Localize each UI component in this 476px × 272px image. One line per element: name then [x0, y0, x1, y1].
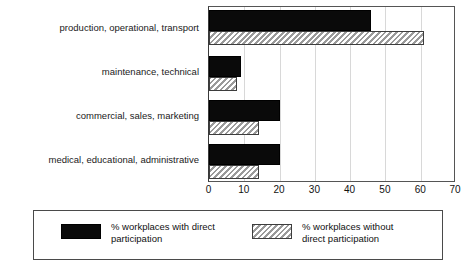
bar-solid-1 [209, 56, 241, 77]
bar-hatch-2 [209, 121, 259, 135]
x-tick-30: 30 [309, 184, 320, 196]
bar-solid-3 [209, 144, 280, 165]
category-axis-labels: production, operational, transport maint… [0, 6, 203, 182]
legend-label-0: % workplaces with direct participation [111, 221, 215, 245]
plot-area [208, 6, 455, 182]
bar-solid-2 [209, 100, 280, 121]
legend-entry-with-participation: % workplaces with direct participation [61, 221, 215, 245]
legend-label-1: % workplaces without direct participatio… [302, 221, 393, 245]
legend: % workplaces with direct participation %… [33, 210, 443, 260]
legend-entry-without-participation: % workplaces without direct participatio… [252, 221, 393, 245]
category-label-0: production, operational, transport [0, 22, 199, 33]
x-tick-60: 60 [415, 184, 426, 196]
x-tick-20: 20 [274, 184, 285, 196]
legend-solid-swatch-icon [61, 224, 101, 239]
category-label-2: commercial, sales, marketing [0, 110, 199, 121]
x-tick-10: 10 [238, 184, 249, 196]
bar-solid-0 [209, 10, 371, 31]
category-label-3: medical, educational, administrative [0, 154, 199, 165]
legend-hatch-swatch-icon [252, 224, 292, 239]
x-axis: 0 10 20 30 40 50 60 70 [208, 183, 455, 199]
x-tick-50: 50 [379, 184, 390, 196]
x-tick-40: 40 [344, 184, 355, 196]
x-tick-70: 70 [449, 184, 460, 196]
bar-hatch-3 [209, 165, 259, 179]
bar-chart: production, operational, transport maint… [0, 0, 476, 272]
bar-hatch-0 [209, 31, 424, 45]
x-tick-0: 0 [206, 184, 212, 196]
category-label-1: maintenance, technical [0, 66, 199, 77]
bar-hatch-1 [209, 77, 237, 91]
